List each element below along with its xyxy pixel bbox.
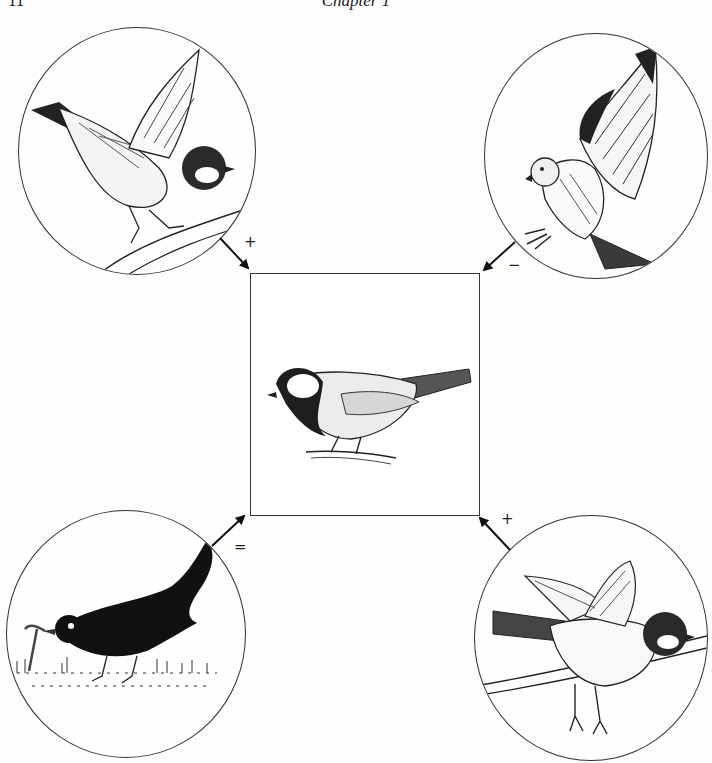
sign-bottom-left: = xyxy=(234,540,247,555)
circle-bottom-right xyxy=(474,515,708,761)
circle-bottom-left xyxy=(6,510,246,758)
great-tit-flying-icon xyxy=(19,28,255,274)
blackbird-icon xyxy=(7,511,245,757)
sign-top-left: + xyxy=(244,235,257,250)
hawk-icon xyxy=(485,34,707,278)
chapter-title: Chapter 1 xyxy=(0,0,712,11)
sign-bottom-right: + xyxy=(501,512,514,527)
great-tit-perched-icon xyxy=(251,274,479,515)
great-tit-landing-icon xyxy=(475,516,707,760)
circle-top-left xyxy=(18,27,256,275)
page-header: 11 Chapter 1 xyxy=(0,0,712,13)
sign-top-right: − xyxy=(508,258,521,273)
circle-top-right xyxy=(484,33,708,279)
center-box xyxy=(250,273,480,516)
